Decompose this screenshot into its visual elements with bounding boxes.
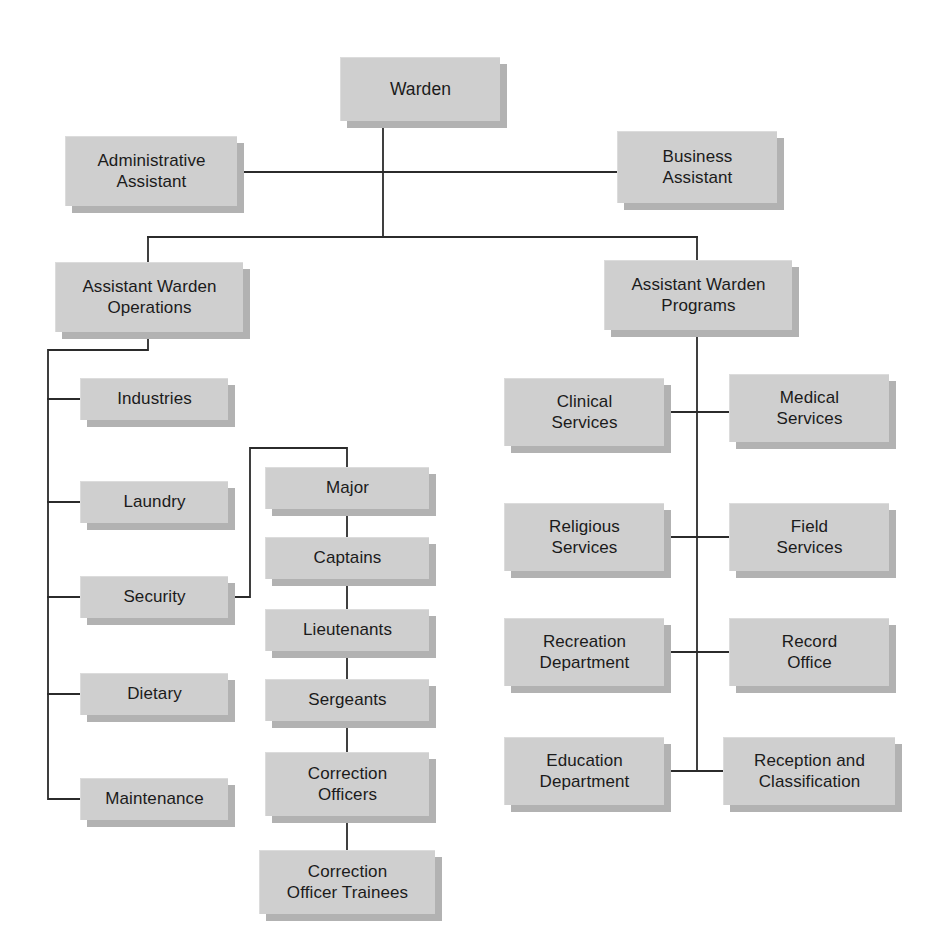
node-label-religious-services: Religious Services bbox=[543, 517, 626, 557]
node-lieutenants[interactable]: Lieutenants bbox=[265, 609, 429, 651]
node-label-major: Major bbox=[320, 478, 375, 498]
node-record-office[interactable]: Record Office bbox=[729, 618, 889, 686]
node-label-medical-services: Medical Services bbox=[771, 388, 849, 428]
node-captains[interactable]: Captains bbox=[265, 537, 429, 579]
node-label-clinical-services: Clinical Services bbox=[546, 392, 624, 432]
node-clinical-services[interactable]: Clinical Services bbox=[504, 378, 664, 446]
node-maintenance[interactable]: Maintenance bbox=[80, 778, 228, 820]
node-label-industries: Industries bbox=[111, 389, 198, 409]
node-major[interactable]: Major bbox=[265, 467, 429, 509]
node-religious-services[interactable]: Religious Services bbox=[504, 503, 664, 571]
node-sergeants[interactable]: Sergeants bbox=[265, 679, 429, 721]
node-warden[interactable]: Warden bbox=[340, 57, 500, 121]
node-label-aw-programs: Assistant Warden Programs bbox=[625, 275, 771, 315]
node-label-captains: Captains bbox=[308, 548, 388, 568]
node-label-admin-assistant: Administrative Assistant bbox=[91, 151, 211, 191]
node-aw-operations[interactable]: Assistant Warden Operations bbox=[55, 262, 243, 332]
node-label-laundry: Laundry bbox=[117, 492, 191, 512]
node-label-correction-officers: Correction Officers bbox=[302, 764, 393, 804]
node-security[interactable]: Security bbox=[80, 576, 228, 618]
node-label-dietary: Dietary bbox=[121, 684, 188, 704]
node-business-assistant[interactable]: Business Assistant bbox=[617, 131, 777, 203]
node-label-field-services: Field Services bbox=[771, 517, 849, 557]
node-label-education-department: Education Department bbox=[534, 751, 636, 791]
node-label-recreation-department: Recreation Department bbox=[534, 632, 636, 672]
node-label-correction-officer-trainees: Correction Officer Trainees bbox=[281, 862, 414, 902]
node-correction-officers[interactable]: Correction Officers bbox=[265, 752, 429, 816]
node-label-record-office: Record Office bbox=[776, 632, 843, 672]
node-field-services[interactable]: Field Services bbox=[729, 503, 889, 571]
node-label-lieutenants: Lieutenants bbox=[297, 620, 398, 640]
node-label-warden: Warden bbox=[384, 79, 457, 100]
node-label-sergeants: Sergeants bbox=[302, 690, 392, 710]
node-reception-classification[interactable]: Reception and Classification bbox=[723, 737, 895, 805]
node-label-reception-classification: Reception and Classification bbox=[748, 751, 871, 791]
org-chart: WardenAdministrative AssistantBusiness A… bbox=[0, 0, 935, 948]
node-label-security: Security bbox=[117, 587, 191, 607]
node-laundry[interactable]: Laundry bbox=[80, 481, 228, 523]
node-label-aw-operations: Assistant Warden Operations bbox=[76, 277, 222, 317]
node-aw-programs[interactable]: Assistant Warden Programs bbox=[604, 260, 792, 330]
node-industries[interactable]: Industries bbox=[80, 378, 228, 420]
node-admin-assistant[interactable]: Administrative Assistant bbox=[65, 136, 237, 206]
node-education-department[interactable]: Education Department bbox=[504, 737, 664, 805]
node-label-maintenance: Maintenance bbox=[99, 789, 209, 809]
node-medical-services[interactable]: Medical Services bbox=[729, 374, 889, 442]
node-dietary[interactable]: Dietary bbox=[80, 673, 228, 715]
node-correction-officer-trainees[interactable]: Correction Officer Trainees bbox=[259, 850, 435, 914]
node-label-business-assistant: Business Assistant bbox=[657, 147, 739, 187]
node-recreation-department[interactable]: Recreation Department bbox=[504, 618, 664, 686]
